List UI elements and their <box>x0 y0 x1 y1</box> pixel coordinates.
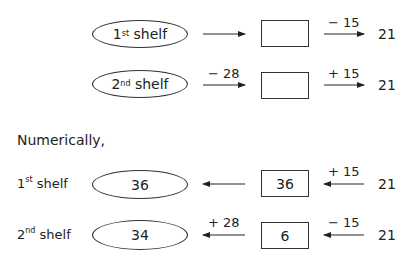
end-value: 21 <box>378 227 396 243</box>
first-shelf-label: 1st shelf <box>17 176 68 191</box>
box-value: 36 <box>276 176 294 192</box>
end-value: 21 <box>378 176 396 192</box>
operation-minus-28: − 28 <box>208 66 240 81</box>
box-value-6: 6 <box>261 222 309 249</box>
unknown-box-2 <box>261 72 309 99</box>
ellipse-value: 36 <box>131 177 149 193</box>
shelf-word: shelf <box>33 176 68 191</box>
shelf-word: shelf <box>35 227 70 242</box>
ordinal-suffix: st <box>122 29 129 38</box>
shelf-word: shelf <box>131 76 169 92</box>
ellipse-value: 34 <box>131 227 149 243</box>
first-shelf-ellipse-value: 36 <box>92 170 188 199</box>
ordinal-suffix: st <box>25 175 32 184</box>
unknown-box-1 <box>261 20 309 47</box>
end-value: 21 <box>378 26 396 42</box>
box-value: 6 <box>281 228 290 244</box>
operation-plus-15: + 15 <box>328 164 360 179</box>
box-value-36: 36 <box>261 170 309 197</box>
operation-minus-15: − 15 <box>328 215 360 230</box>
ordinal-suffix: nd <box>120 79 130 88</box>
second-shelf-ellipse-value: 34 <box>92 220 188 250</box>
ordinal-suffix: nd <box>25 226 35 235</box>
second-shelf-label: 2nd shelf <box>17 227 71 242</box>
end-value: 21 <box>378 77 396 93</box>
operation-minus-15: − 15 <box>328 15 360 30</box>
operation-plus-15: + 15 <box>328 66 360 81</box>
shelf-number: 2 <box>111 76 120 92</box>
shelf-number: 1 <box>113 26 122 42</box>
second-shelf-ellipse: 2nd shelf <box>92 70 188 98</box>
operation-plus-28: + 28 <box>208 215 240 230</box>
section-heading: Numerically, <box>17 132 105 148</box>
first-shelf-ellipse: 1st shelf <box>92 20 188 48</box>
shelf-word: shelf <box>129 26 167 42</box>
